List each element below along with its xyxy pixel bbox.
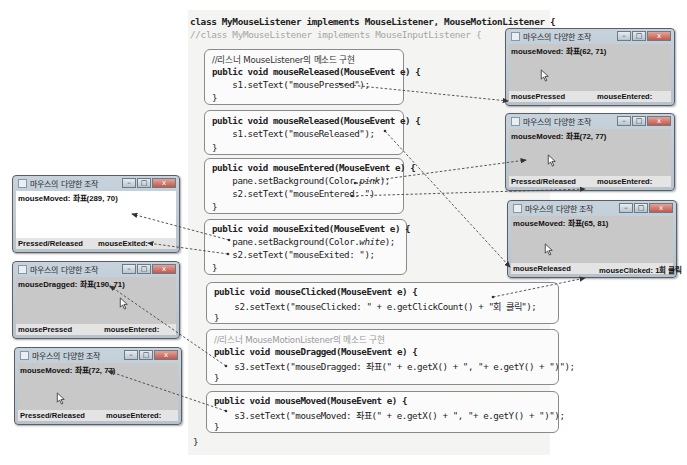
title-bar[interactable]: 마우스의 다양한 조작 –□x — [13, 262, 179, 277]
status-bar: Pressed/Released mouseEntered: — [509, 176, 671, 187]
method-body-background: pane.setBackground(Color.pink); — [212, 175, 390, 186]
code-block-mouse-exited: public void mouseExited(MouseEvent e) { … — [204, 219, 407, 275]
close-button[interactable]: x — [152, 264, 176, 274]
code-text: ); — [380, 175, 390, 186]
minimize-button[interactable]: – — [122, 178, 136, 188]
comment-line: //리스너 MouseListener의 메소드 구현 — [212, 53, 355, 65]
code-block-mouse-moved: public void mouseMoved(MouseEvent e) { s… — [206, 391, 559, 433]
mouse-cursor-icon — [56, 392, 66, 405]
s3-label: mouseMoved: 좌표(62, 71) — [511, 45, 606, 56]
closing-brace: } — [212, 262, 217, 273]
window-title: 마우스의 다양한 조작 — [525, 203, 593, 214]
demo-window-mouse-exited[interactable]: 마우스의 다양한 조작 –□x mouseMoved: 좌표(289, 70) … — [12, 175, 180, 253]
demo-window-mouse-clicked[interactable]: 마우스의 다양한 조작 –□x mouseMoved: 좌표(65, 81) m… — [507, 200, 677, 278]
java-app-icon — [511, 32, 520, 41]
minimize-button[interactable]: – — [619, 203, 633, 213]
status-bar: mousePressed mouseEntered: — [16, 324, 176, 335]
method-body: s3.setText("mouseDragged: 좌표(" + e.getX(… — [214, 359, 575, 373]
s3-label: mouseMoved: 좌표(65, 81) — [513, 217, 608, 228]
window-title: 마우스의 다양한 조작 — [523, 116, 591, 127]
method-body: s1.setText("mouseReleased"); — [212, 128, 375, 139]
s3-label: mouseMoved: 좌표(289, 70) — [18, 192, 118, 203]
close-button[interactable]: x — [154, 350, 178, 360]
s2-label: mouseEntered: — [597, 92, 652, 101]
content-pane[interactable]: mouseDragged: 좌표(190, 71) mousePressed m… — [16, 277, 176, 335]
s2-label: mouseEntered: — [597, 177, 652, 186]
method-body-text: s2.setText("mouseEntered: ") — [212, 188, 375, 199]
content-pane[interactable]: mouseMoved: 좌표(65, 81) mouseReleased mou… — [511, 216, 673, 274]
color-constant: pink — [359, 175, 379, 186]
content-pane[interactable]: mouseMoved: 좌표(289, 70) Pressed/Released… — [16, 191, 176, 249]
close-button[interactable]: x — [649, 203, 673, 213]
window-title: 마우스의 다양한 조작 — [32, 350, 100, 361]
code-text: pane.setBackground(Color. — [212, 236, 359, 247]
java-app-icon — [18, 265, 27, 274]
alt-class-declaration: //class MyMouseListener implements Mouse… — [190, 29, 481, 40]
maximize-button[interactable]: □ — [634, 203, 648, 213]
java-app-icon — [20, 351, 29, 360]
title-bar[interactable]: 마우스의 다양한 조작 –□x — [15, 348, 181, 363]
s1-label: Pressed/Released — [20, 411, 85, 420]
close-button[interactable]: x — [647, 31, 671, 41]
maximize-button[interactable]: □ — [632, 116, 646, 126]
s3-label: mouseMoved: 좌표(72, 77) — [20, 364, 115, 375]
title-bar[interactable]: 마우스의 다양한 조작 –□x — [508, 201, 676, 216]
minimize-button[interactable]: – — [617, 116, 631, 126]
color-constant: white — [359, 236, 384, 247]
class-declaration: class MyMouseListener implements MouseLi… — [190, 16, 555, 27]
code-block-mouse-released: public void mouseReleased(MouseEvent e) … — [204, 110, 404, 155]
status-bar: mousePressed mouseEntered: — [509, 91, 671, 102]
s1-label: mousePressed — [18, 325, 72, 334]
method-body: s1.setText("mousePressed"); — [212, 79, 370, 90]
closing-brace: } — [212, 92, 217, 103]
window-title: 마우스의 다양한 조작 — [30, 264, 98, 275]
closing-brace: } — [214, 312, 219, 323]
title-bar[interactable]: 마우스의 다양한 조작 –□x — [506, 29, 674, 44]
content-pane[interactable]: mouseMoved: 좌표(72, 77) Pressed/Released … — [509, 129, 671, 187]
closing-brace: } — [214, 372, 219, 383]
code-block-mouse-pressed: //리스너 MouseListener의 메소드 구현 public void … — [204, 49, 404, 105]
method-body: s3.setText("mouseMoved: 좌표(" + e.getX() … — [214, 408, 564, 422]
mouse-cursor-icon — [547, 154, 557, 167]
title-bar[interactable]: 마우스의 다양한 조작 –□x — [13, 176, 179, 191]
maximize-button[interactable]: □ — [137, 178, 151, 188]
maximize-button[interactable]: □ — [632, 31, 646, 41]
content-pane[interactable]: mouseMoved: 좌표(62, 71) mousePressed mous… — [509, 44, 671, 102]
window-title: 마우스의 다양한 조작 — [523, 31, 591, 42]
demo-window-mouse-pressed[interactable]: 마우스의 다양한 조작 –□x mouseMoved: 좌표(62, 71) m… — [505, 28, 675, 106]
minimize-button[interactable]: – — [124, 350, 138, 360]
closing-brace: } — [212, 201, 217, 212]
closing-brace: } — [214, 421, 219, 432]
s2-label: mouseEntered: — [106, 411, 161, 420]
java-app-icon — [513, 204, 522, 213]
code-block-mouse-entered: public void mouseEntered(MouseEvent e) {… — [204, 158, 404, 214]
s1-label: Pressed/Released — [18, 239, 83, 248]
s2-label: mouseEntered: — [104, 325, 159, 334]
demo-window-mouse-dragged[interactable]: 마우스의 다양한 조작 –□x mouseDragged: 좌표(190, 71… — [12, 261, 180, 339]
method-signature: public void mouseClicked(MouseEvent e) { — [214, 286, 417, 297]
maximize-button[interactable]: □ — [139, 350, 153, 360]
method-signature: public void mouseDragged(MouseEvent e) { — [214, 346, 417, 357]
title-bar[interactable]: 마우스의 다양한 조작 –□x — [506, 114, 674, 129]
mouse-cursor-icon — [544, 243, 554, 256]
demo-window-mouse-moved[interactable]: 마우스의 다양한 조작 –□x mouseMoved: 좌표(72, 77) P… — [14, 347, 182, 425]
demo-window-mouse-entered[interactable]: 마우스의 다양한 조작 –□x mouseMoved: 좌표(72, 77) P… — [505, 113, 675, 191]
java-app-icon — [18, 179, 27, 188]
status-bar: Pressed/Released mouseEntered: — [18, 410, 178, 421]
s1-label: Pressed/Released — [511, 177, 576, 186]
window-title: 마우스의 다양한 조작 — [30, 178, 98, 189]
code-block-mouse-clicked: public void mouseClicked(MouseEvent e) {… — [206, 282, 559, 324]
maximize-button[interactable]: □ — [137, 264, 151, 274]
mouse-cursor-icon — [540, 69, 550, 82]
method-body: s2.setText("mouseClicked: " + e.getClick… — [214, 299, 536, 313]
mouse-cursor-icon — [119, 297, 129, 310]
minimize-button[interactable]: – — [122, 264, 136, 274]
content-pane[interactable]: mouseMoved: 좌표(72, 77) Pressed/Released … — [18, 363, 178, 421]
method-signature: public void mouseMoved(MouseEvent e) { — [214, 395, 407, 406]
minimize-button[interactable]: – — [617, 31, 631, 41]
s3-label: mouseDragged: 좌표(190, 71) — [18, 278, 125, 289]
closing-brace: } — [212, 142, 217, 153]
close-button[interactable]: x — [152, 178, 176, 188]
close-button[interactable]: x — [647, 116, 671, 126]
method-body-text: s2.setText("mouseExited: "); — [212, 249, 375, 260]
